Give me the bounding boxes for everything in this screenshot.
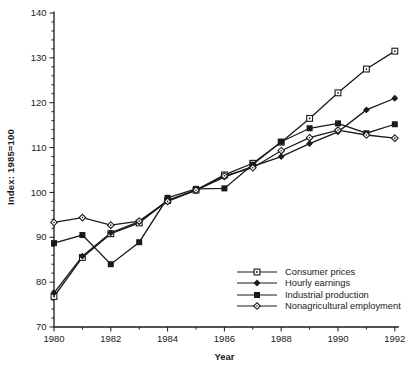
y-axis-title: Index: 1985=100	[5, 129, 16, 205]
svg-text:140: 140	[31, 7, 47, 18]
open-diamond-marker-icon	[236, 301, 278, 311]
legend-item-nonagricultural-employment: Nonagricultural employment	[236, 301, 401, 313]
svg-text:1980: 1980	[43, 333, 64, 344]
svg-text:120: 120	[31, 97, 47, 108]
svg-text:1990: 1990	[327, 333, 348, 344]
legend-label-hourly-earnings: Hourly earnings	[285, 278, 350, 288]
x-axis-title: Year	[54, 351, 395, 362]
svg-text:70: 70	[36, 321, 47, 332]
svg-text:90: 90	[36, 231, 47, 242]
economic-indices-line-chart: 7080901001101201301401980198219841986198…	[0, 0, 415, 372]
svg-text:1984: 1984	[157, 333, 178, 344]
svg-text:1986: 1986	[214, 333, 235, 344]
svg-text:1988: 1988	[271, 333, 292, 344]
legend: Consumer prices Hourly earnings Industri…	[236, 266, 401, 312]
open-square-marker-icon	[236, 267, 278, 277]
svg-text:110: 110	[31, 142, 46, 153]
legend-label-industrial-production: Industrial production	[285, 290, 369, 300]
legend-label-nonagricultural-employment: Nonagricultural employment	[285, 301, 401, 311]
svg-text:100: 100	[31, 187, 47, 198]
svg-text:1992: 1992	[384, 333, 405, 344]
filled-diamond-marker-icon	[236, 278, 278, 288]
plot-area: 7080901001101201301401980198219841986198…	[0, 0, 415, 372]
legend-item-industrial-production: Industrial production	[236, 289, 401, 301]
filled-square-marker-icon	[236, 290, 278, 300]
legend-item-consumer-prices: Consumer prices	[236, 266, 401, 278]
legend-item-hourly-earnings: Hourly earnings	[236, 278, 401, 290]
svg-text:1982: 1982	[100, 333, 121, 344]
svg-text:130: 130	[31, 52, 47, 63]
svg-text:80: 80	[36, 276, 47, 287]
legend-label-consumer-prices: Consumer prices	[285, 267, 355, 277]
